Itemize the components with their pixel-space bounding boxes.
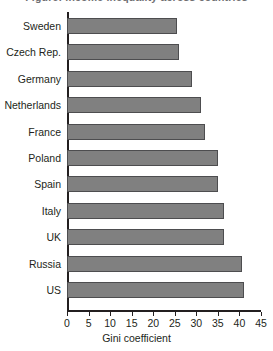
x-axis-tick xyxy=(67,312,68,316)
bar-row: Germany xyxy=(67,71,261,87)
bar xyxy=(67,44,179,60)
bar-row: UK xyxy=(67,229,261,245)
x-axis-tick xyxy=(196,312,197,316)
x-axis-tick-label: 0 xyxy=(64,317,70,329)
category-label: Sweden xyxy=(23,20,61,32)
category-label: UK xyxy=(46,231,61,243)
x-axis-title: Gini coefficient xyxy=(0,332,273,344)
x-axis-tick xyxy=(89,312,90,316)
bar xyxy=(67,282,244,298)
bar xyxy=(67,176,218,192)
category-label: Netherlands xyxy=(4,99,61,111)
category-label: Poland xyxy=(28,152,61,164)
bar-row: Italy xyxy=(67,203,261,219)
bar-row: Poland xyxy=(67,150,261,166)
category-label: France xyxy=(28,126,61,138)
bar xyxy=(67,229,224,245)
bar xyxy=(67,71,192,87)
x-axis-tick-label: 20 xyxy=(147,317,159,329)
x-axis-tick xyxy=(110,312,111,316)
bar-row: US xyxy=(67,282,261,298)
category-label: Russia xyxy=(29,258,61,270)
category-label: Italy xyxy=(42,205,61,217)
bar xyxy=(67,150,218,166)
gini-coefficient-bar-chart: Figure: income inequality across countri… xyxy=(0,0,273,351)
x-axis-tick xyxy=(132,312,133,316)
category-label: US xyxy=(46,284,61,296)
bar-row: Russia xyxy=(67,256,261,272)
x-axis-tick xyxy=(153,312,154,316)
bar-row: France xyxy=(67,124,261,140)
x-axis-tick xyxy=(218,312,219,316)
bar xyxy=(67,124,205,140)
bar-row: Netherlands xyxy=(67,97,261,113)
bar-row: Spain xyxy=(67,176,261,192)
x-axis-tick-label: 35 xyxy=(212,317,224,329)
bar xyxy=(67,97,201,113)
x-axis-tick-label: 30 xyxy=(190,317,202,329)
x-axis-tick xyxy=(175,312,176,316)
x-axis-tick-label: 10 xyxy=(104,317,116,329)
bar xyxy=(67,18,177,34)
x-axis-tick-label: 25 xyxy=(169,317,181,329)
x-axis-tick xyxy=(261,312,262,316)
x-axis-tick-label: 15 xyxy=(126,317,138,329)
x-axis-tick-label: 45 xyxy=(255,317,267,329)
plot-area: SwedenCzech Rep.GermanyNetherlandsFrance… xyxy=(67,12,261,311)
category-label: Germany xyxy=(18,73,61,85)
x-axis-tick-label: 5 xyxy=(86,317,92,329)
bar-row: Sweden xyxy=(67,18,261,34)
clipped-caption: Figure: income inequality across countri… xyxy=(0,0,273,3)
x-axis-tick-label: 40 xyxy=(234,317,246,329)
category-label: Czech Rep. xyxy=(6,46,61,58)
bar-row: Czech Rep. xyxy=(67,44,261,60)
category-label: Spain xyxy=(34,178,61,190)
bar xyxy=(67,256,242,272)
bar xyxy=(67,203,224,219)
x-axis-tick xyxy=(239,312,240,316)
